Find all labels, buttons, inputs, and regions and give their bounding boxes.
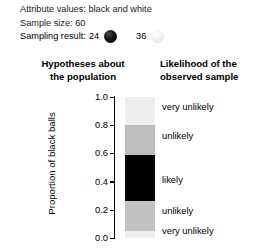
likelihood-band-label: unlikely — [162, 131, 193, 140]
likelihood-band — [125, 125, 155, 155]
likelihood-band-label: very unlikely — [162, 102, 214, 111]
y-tick-label: 0.2 — [86, 205, 108, 214]
likelihood-band-label: very unlikely — [162, 226, 214, 235]
likelihood-band-label: unlikely — [162, 206, 193, 215]
likelihood-chart: Proportion of black balls 1.00.80.60.40.… — [0, 0, 265, 250]
y-axis-tick-labels: 1.00.80.60.40.20.0 — [84, 0, 108, 250]
y-tick-mark — [110, 238, 115, 239]
y-tick-label: 0.8 — [86, 120, 108, 129]
y-axis-label: Proportion of black balls — [46, 92, 57, 236]
likelihood-bar — [125, 93, 155, 239]
y-tick-label: 0.0 — [86, 233, 108, 242]
likelihood-band — [125, 201, 155, 231]
y-tick-label: 1.0 — [86, 92, 108, 101]
y-axis — [110, 96, 116, 238]
likelihood-band — [125, 155, 155, 202]
likelihood-band — [125, 231, 155, 238]
y-tick-mark — [110, 181, 115, 182]
y-axis-spine — [114, 96, 115, 238]
likelihood-band-label: likely — [162, 175, 183, 184]
y-tick-mark — [110, 153, 115, 154]
y-tick-mark — [110, 210, 115, 211]
y-tick-mark — [110, 125, 115, 126]
likelihood-band — [125, 97, 155, 125]
y-tick-label: 0.4 — [86, 177, 108, 186]
y-tick-label: 0.6 — [86, 148, 108, 157]
y-tick-mark — [110, 97, 115, 98]
